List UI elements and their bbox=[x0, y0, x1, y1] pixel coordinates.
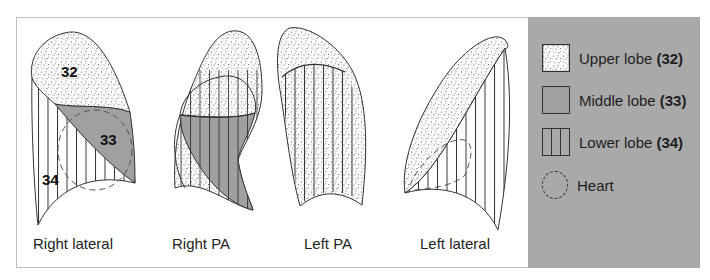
legend-label-heart: Heart bbox=[577, 177, 614, 194]
view-label-left-pa: Left PA bbox=[304, 235, 352, 252]
legend-item-lower-lobe: Lower lobe(34) bbox=[542, 128, 683, 156]
dashed-circle-icon bbox=[542, 171, 568, 199]
left-lateral-lung bbox=[400, 37, 515, 235]
legend-item-upper-lobe: Upper lobe(32) bbox=[542, 44, 683, 72]
view-label-left-lateral: Left lateral bbox=[420, 235, 490, 252]
vertical-lines-swatch-icon bbox=[542, 128, 570, 156]
solid-grey-swatch-icon bbox=[542, 86, 570, 114]
stipple-swatch-icon bbox=[542, 44, 570, 72]
left-pa-lung bbox=[277, 28, 368, 210]
lobe-number-lower: 34 bbox=[42, 171, 59, 188]
lobe-number-middle: 33 bbox=[100, 131, 117, 148]
legend-label-lower: Lower lobe(34) bbox=[579, 134, 683, 151]
legend-label-middle: Middle lobe(33) bbox=[579, 92, 686, 109]
legend-label-upper: Upper lobe(32) bbox=[579, 50, 683, 67]
view-label-right-lateral: Right lateral bbox=[33, 235, 113, 252]
view-label-right-pa: Right PA bbox=[172, 235, 230, 252]
right-lateral-lung: 32 33 34 bbox=[28, 32, 138, 230]
right-pa-lung bbox=[170, 31, 265, 215]
legend-item-middle-lobe: Middle lobe(33) bbox=[542, 86, 686, 114]
lobe-number-upper: 32 bbox=[61, 63, 78, 80]
legend-item-heart: Heart bbox=[542, 171, 614, 199]
